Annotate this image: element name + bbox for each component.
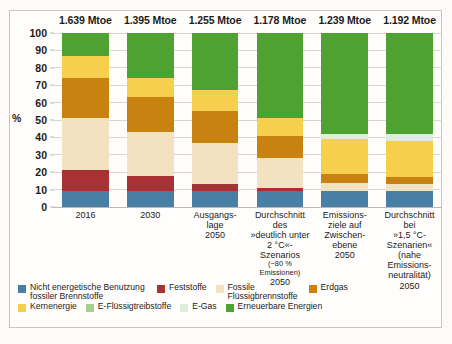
bar-segment xyxy=(192,184,239,191)
legend-label: Fossile Flüssigbrennstoffe xyxy=(228,283,300,302)
x-label-year: 2050 xyxy=(184,230,247,240)
bar-segment xyxy=(62,191,109,207)
y-tick-label-0: 0 xyxy=(41,202,47,213)
bar-segment xyxy=(127,97,174,132)
bar-total-1: 1.639 Mtoe xyxy=(53,14,118,30)
x-label-main: Ausgangs-lage xyxy=(184,210,247,230)
bar-slot-6 xyxy=(377,33,442,207)
y-tick-label-10: 10 xyxy=(35,184,47,195)
bar-segment xyxy=(321,33,368,134)
x-label-main: Emissions-ziele aufZwischen-ebene xyxy=(313,210,376,250)
stacked-bars xyxy=(53,33,442,207)
bar-segment xyxy=(127,191,174,207)
legend-swatch-icon xyxy=(216,285,224,293)
legend-row-2: KernenergieE-FlüssigtreibstoffeE-GasErne… xyxy=(18,302,436,321)
legend-swatch-icon xyxy=(180,304,188,312)
bar-segment xyxy=(321,191,368,207)
bar-segment xyxy=(192,111,239,142)
chart-legend: Nicht energetische Benutzung fossiler Br… xyxy=(18,283,436,321)
plot-area xyxy=(53,33,442,207)
y-tick-label-20: 20 xyxy=(35,167,47,178)
bar-segment xyxy=(257,158,304,188)
x-label-main: 2030 xyxy=(119,210,182,220)
bar-segment xyxy=(62,170,109,191)
x-axis-label-3: Ausgangs-lage2050 xyxy=(183,210,248,276)
bar-segment xyxy=(62,56,109,79)
bar-segment xyxy=(257,191,304,207)
bar-segment xyxy=(386,141,433,178)
bar-segment xyxy=(321,183,368,192)
x-axis-label-1: 2016 xyxy=(53,210,118,276)
bar-slot-4 xyxy=(247,33,312,207)
bar-segment xyxy=(386,134,433,141)
legend-item[interactable]: Erneuerbare Energien xyxy=(226,302,323,312)
bar-segment xyxy=(386,33,433,134)
x-axis-label-5: Emissions-ziele aufZwischen-ebene2050 xyxy=(312,210,377,276)
bar-segment xyxy=(321,139,368,174)
y-tick-label-100: 100 xyxy=(29,28,47,39)
bar-slot-1 xyxy=(53,33,118,207)
legend-item[interactable]: E-Flüssigtreibstoffe xyxy=(86,302,171,312)
legend-item[interactable]: Fossile Flüssigbrennstoffe xyxy=(216,283,300,302)
bar-segment xyxy=(127,176,174,192)
y-tick-label-90: 90 xyxy=(35,45,47,56)
stacked-bar[interactable] xyxy=(62,33,109,207)
legend-swatch-icon xyxy=(157,285,165,293)
y-tick-label-60: 60 xyxy=(35,97,47,108)
legend-item[interactable]: Kernenergie xyxy=(18,302,77,312)
bar-totals-row: 1.639 Mtoe1.395 Mtoe1.255 Mtoe1.178 Mtoe… xyxy=(53,14,442,30)
stacked-bar[interactable] xyxy=(192,33,239,207)
legend-item[interactable]: Erdgas xyxy=(309,283,348,293)
bar-segment xyxy=(257,33,304,118)
y-tick-label-40: 40 xyxy=(35,132,47,143)
figure-root: 1.639 Mtoe1.395 Mtoe1.255 Mtoe1.178 Mtoe… xyxy=(0,0,452,344)
bar-segment xyxy=(127,33,174,78)
bar-slot-3 xyxy=(183,33,248,207)
bar-segment xyxy=(192,90,239,111)
legend-label: Kernenergie xyxy=(30,302,77,311)
bar-segment xyxy=(257,136,304,159)
x-axis-label-4: Durchschnitt des»deutlich unter 2 °C«-Sz… xyxy=(247,210,312,276)
bar-total-5: 1.239 Mtoe xyxy=(312,14,377,30)
x-label-main: Durchschnitt bei»1,5 °C-Szenarien«(nahe … xyxy=(378,210,441,281)
bar-segment xyxy=(127,78,174,97)
x-label-main: 2016 xyxy=(54,210,117,220)
x-axis-label-2: 2030 xyxy=(118,210,183,276)
y-tick-label-70: 70 xyxy=(35,80,47,91)
y-tick-label-80: 80 xyxy=(35,63,47,74)
legend-item[interactable]: Nicht energetische Benutzung fossiler Br… xyxy=(18,283,148,302)
legend-row-1: Nicht energetische Benutzung fossiler Br… xyxy=(18,283,436,302)
bar-segment xyxy=(386,191,433,207)
legend-label: Nicht energetische Benutzung fossiler Br… xyxy=(30,283,148,302)
legend-swatch-icon xyxy=(86,304,94,312)
x-axis: 20162030Ausgangs-lage2050Durchschnitt de… xyxy=(53,210,442,276)
legend-label: E-Flüssigtreibstoffe xyxy=(98,302,171,311)
bar-segment xyxy=(62,78,109,118)
bar-total-3: 1.255 Mtoe xyxy=(183,14,248,30)
x-label-main: Durchschnitt des»deutlich unter 2 °C«-Sz… xyxy=(248,210,311,260)
bar-total-2: 1.395 Mtoe xyxy=(118,14,183,30)
legend-label: E-Gas xyxy=(192,302,216,311)
bar-slot-5 xyxy=(312,33,377,207)
bar-slot-2 xyxy=(118,33,183,207)
bar-segment xyxy=(192,143,239,185)
legend-swatch-icon xyxy=(18,285,26,293)
legend-swatch-icon xyxy=(226,304,234,312)
bar-segment xyxy=(62,33,109,56)
bar-segment xyxy=(321,174,368,183)
bar-segment xyxy=(127,132,174,176)
stacked-bar[interactable] xyxy=(321,33,368,207)
bar-segment xyxy=(192,33,239,90)
bar-segment xyxy=(192,191,239,207)
legend-item[interactable]: Feststoffe xyxy=(157,283,207,293)
stacked-bar[interactable] xyxy=(257,33,304,207)
y-axis-label: % xyxy=(12,112,21,124)
legend-label: Erdgas xyxy=(321,283,348,292)
legend-item[interactable]: E-Gas xyxy=(180,302,216,312)
stacked-bar[interactable] xyxy=(386,33,433,207)
legend-label: Erneuerbare Energien xyxy=(238,302,323,311)
stacked-bar[interactable] xyxy=(127,33,174,207)
y-tick-label-50: 50 xyxy=(35,115,47,126)
bar-segment xyxy=(386,184,433,191)
x-label-note: (−80 % Emissionen) xyxy=(248,260,311,277)
